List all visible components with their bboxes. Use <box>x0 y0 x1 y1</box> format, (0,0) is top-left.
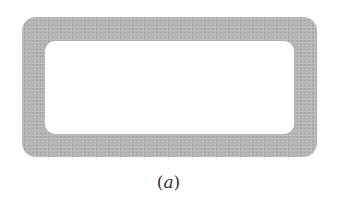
figure-caption: (a) <box>0 172 337 192</box>
rounded-rectangle-ring <box>22 17 317 157</box>
caption-variable: a <box>163 172 173 192</box>
caption-close-paren: ) <box>174 172 181 192</box>
inner-hollow-region <box>45 41 294 134</box>
